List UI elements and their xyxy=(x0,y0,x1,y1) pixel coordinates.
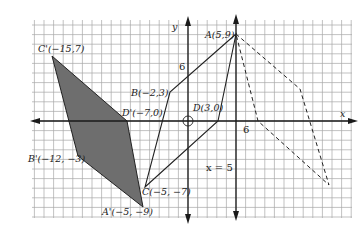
coordinate-plane-diagram: y x 6 6 x = 5 A(5,9) B(−2,3) C(−5, −7) D… xyxy=(0,0,360,226)
x-tick-label: 6 xyxy=(243,124,249,135)
reflection-line-up-arrow-icon xyxy=(233,14,239,24)
vertex-label-B: B(−2,3) xyxy=(130,87,169,98)
vertex-label-A: A(5,9) xyxy=(204,29,235,40)
vertex-label-C: C(−5, −7) xyxy=(142,186,191,197)
vertex-label-D-prime: D'(−7,0) xyxy=(121,107,163,118)
reflected-quadrilateral-dashed xyxy=(236,34,329,185)
reflection-line-down-arrow-icon xyxy=(233,211,239,221)
vertex-label-A-prime: A'(−5, −9) xyxy=(101,206,153,217)
vertex-label-C-prime: C'(−15,7) xyxy=(38,43,85,54)
x-axis-left-arrow-icon xyxy=(30,118,40,124)
y-axis-label: y xyxy=(171,21,178,32)
reflection-line-label: x = 5 xyxy=(206,162,233,173)
vertex-label-D: D(3,0) xyxy=(192,102,223,113)
image-quadrilateral-shaded xyxy=(52,56,143,207)
vertex-label-B-prime: B'(−12, −3) xyxy=(27,153,85,164)
y-tick-label: 6 xyxy=(179,61,185,72)
y-axis-down-arrow-icon xyxy=(185,214,191,224)
x-axis-label: x xyxy=(340,108,346,119)
y-axis-up-arrow-icon xyxy=(185,16,191,26)
x-axis-right-arrow-icon xyxy=(348,118,358,124)
